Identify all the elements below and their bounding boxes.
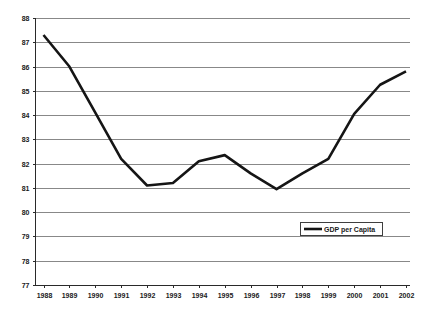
x-tick-label: 1999 xyxy=(321,292,337,299)
x-tick-labels-group: 1988198919901991199219931994199519961997… xyxy=(37,292,415,299)
gdp-per-capita-line-chart: 888786858483828180797877 198819891990199… xyxy=(0,0,421,319)
x-axis-group xyxy=(36,285,411,288)
x-tick-label: 2000 xyxy=(347,292,363,299)
y-tick-label: 79 xyxy=(22,233,30,240)
legend-label-gdp-per-capita: GDP per Capita xyxy=(324,226,375,234)
y-axis-group xyxy=(33,18,36,286)
x-tick-label: 1989 xyxy=(62,292,78,299)
x-tick-label: 1996 xyxy=(244,292,260,299)
x-tick-label: 1997 xyxy=(270,292,286,299)
y-tick-label: 78 xyxy=(22,258,30,265)
x-tick-label: 1995 xyxy=(218,292,234,299)
y-tick-label: 84 xyxy=(22,112,30,119)
x-tick-label: 1994 xyxy=(192,292,208,299)
y-tick-label: 83 xyxy=(22,136,30,143)
x-tick-label: 2001 xyxy=(373,292,389,299)
series-line-gdp-per-capita xyxy=(44,35,407,189)
x-tick-label: 1998 xyxy=(295,292,311,299)
y-tick-label: 81 xyxy=(22,185,30,192)
y-tick-label: 88 xyxy=(22,15,30,22)
x-tick-label: 1992 xyxy=(140,292,156,299)
legend: GDP per Capita xyxy=(301,223,383,236)
y-tick-labels-group: 888786858483828180797877 xyxy=(22,15,30,289)
y-tick-label: 86 xyxy=(22,64,30,71)
x-tick-label: 1990 xyxy=(88,292,104,299)
y-tick-label: 82 xyxy=(22,161,30,168)
x-tick-label: 1991 xyxy=(114,292,130,299)
chart-canvas: 888786858483828180797877 198819891990199… xyxy=(0,0,421,319)
x-tick-label: 1988 xyxy=(37,292,53,299)
y-tick-label: 85 xyxy=(22,88,30,95)
y-tick-label: 77 xyxy=(22,282,30,289)
y-tick-label: 80 xyxy=(22,209,30,216)
x-tick-label: 2002 xyxy=(399,292,415,299)
x-tick-label: 1993 xyxy=(166,292,182,299)
y-tick-label: 87 xyxy=(22,39,30,46)
data-series-group xyxy=(44,35,407,189)
